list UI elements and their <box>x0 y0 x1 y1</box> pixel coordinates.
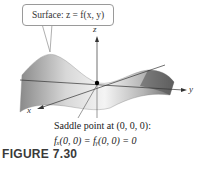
z-axis-label: z <box>93 24 97 34</box>
y-axis-label: y <box>189 84 193 94</box>
surface-callout: Surface: z = f(x, y) <box>22 4 114 26</box>
partial-derivatives-caption: fₓ(0, 0) = fᵧ(0, 0) = 0 <box>54 135 137 146</box>
saddle-point-caption: Saddle point at (0, 0, 0): <box>54 120 151 131</box>
figure-number: FIGURE 7.30 <box>2 147 77 161</box>
callout-text: Surface: z = f(x, y) <box>32 10 104 20</box>
x-axis-label: x <box>27 105 31 115</box>
